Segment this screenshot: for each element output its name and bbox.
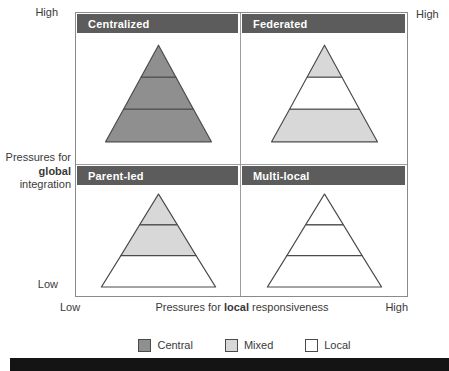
pyramid-multi-local	[256, 190, 393, 291]
diagram-page: High High Centralized Federated Parent-l…	[0, 0, 449, 371]
quadrant-centralized: Centralized	[76, 13, 240, 164]
top-right-high-label: High	[416, 8, 439, 20]
quadrant-matrix: Centralized Federated Parent-led	[75, 12, 408, 297]
local-swatch-icon	[305, 339, 318, 352]
legend-label-central: Central	[157, 339, 192, 351]
quadrant-title: Federated	[253, 18, 307, 30]
quadrant-title: Centralized	[88, 18, 150, 30]
quadrant-body	[241, 33, 407, 164]
y-axis-title-line3: integration	[0, 178, 71, 192]
y-axis-low-label: Low	[0, 278, 58, 290]
quadrant-title: Multi-local	[253, 170, 310, 182]
legend-label-mixed: Mixed	[244, 339, 273, 351]
quadrant-body	[76, 185, 240, 296]
quadrant-federated: Federated	[240, 13, 407, 164]
quadrant-header-parent-led: Parent-led	[77, 166, 238, 185]
y-axis-title-line2: global	[0, 165, 71, 179]
quadrant-header-multi-local: Multi-local	[242, 166, 405, 185]
pyramid-federated	[261, 41, 388, 146]
quadrant-parent-led: Parent-led	[76, 164, 240, 296]
quadrant-multi-local: Multi-local	[240, 164, 407, 296]
legend: Central Mixed Local	[40, 337, 449, 353]
central-swatch-icon	[138, 339, 151, 352]
x-axis-high-label: High	[350, 301, 408, 313]
bottom-black-bar	[10, 358, 449, 371]
legend-item-local: Local	[305, 339, 350, 352]
legend-item-central: Central	[138, 339, 192, 352]
y-axis-high-label: High	[0, 6, 58, 18]
pyramid-parent-led	[90, 190, 227, 291]
y-axis-title-line1: Pressures for	[0, 151, 71, 165]
quadrant-body	[76, 33, 240, 164]
mixed-swatch-icon	[225, 339, 238, 352]
quadrant-body	[241, 185, 407, 296]
x-axis-title-pre: Pressures for	[155, 301, 223, 313]
legend-item-mixed: Mixed	[225, 339, 273, 352]
quadrant-header-centralized: Centralized	[77, 14, 238, 33]
y-axis-title: Pressures for global integration	[0, 151, 71, 192]
quadrant-header-federated: Federated	[242, 14, 405, 33]
pyramid-centralized	[95, 41, 222, 146]
legend-label-local: Local	[324, 339, 350, 351]
x-axis-title-post: responsiveness	[249, 301, 329, 313]
x-axis-title-bold: local	[224, 301, 249, 313]
quadrant-title: Parent-led	[88, 170, 144, 182]
